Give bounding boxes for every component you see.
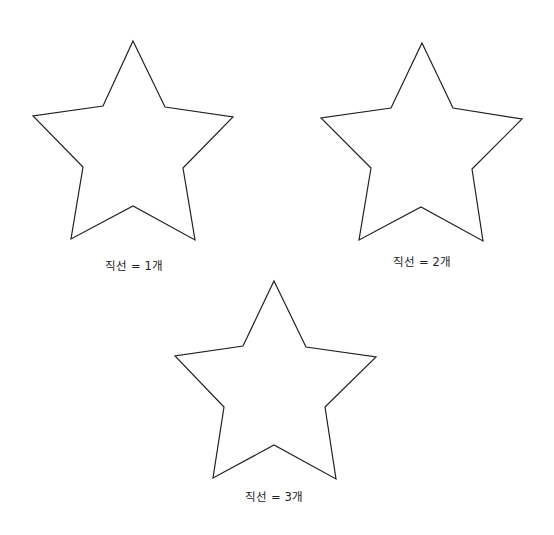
stars-diagram xyxy=(0,0,554,535)
star-label-2: 직선 = 2개 xyxy=(393,255,452,269)
star-label-1: 직선 = 1개 xyxy=(105,259,164,273)
star-label-3: 직선 = 3개 xyxy=(245,490,304,504)
star-shape-2 xyxy=(321,43,522,241)
star-shape-1 xyxy=(33,41,233,240)
star-shape-3 xyxy=(175,281,376,479)
